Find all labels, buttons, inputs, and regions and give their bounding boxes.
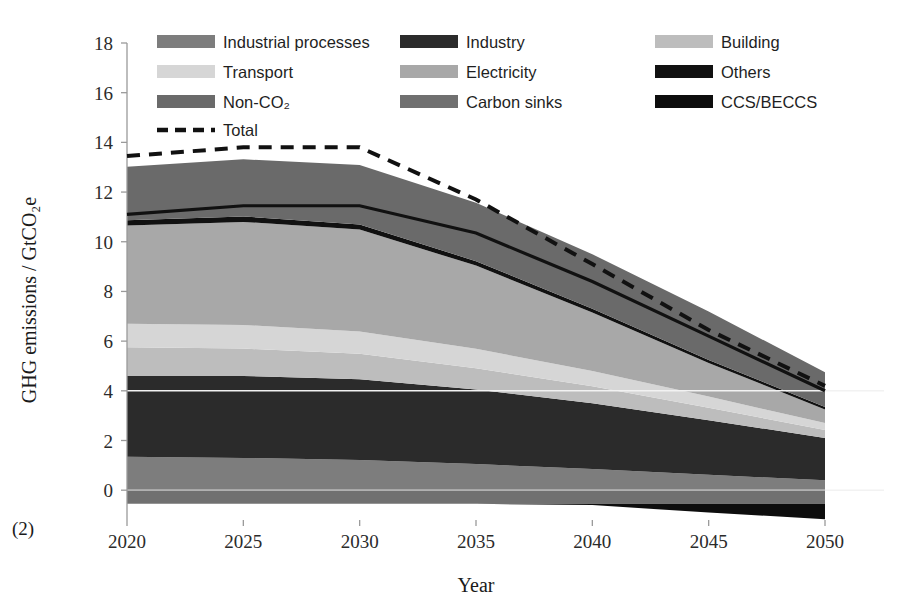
legend-swatch-electricity xyxy=(400,65,458,78)
y-axis-title: GHG emissions / GtCO₂e xyxy=(18,197,40,404)
y-tick-label-2: 2 xyxy=(104,431,114,452)
figure-panel: 024681012141618 202020252030203520402045… xyxy=(0,0,918,616)
legend-swatch-industrial_processes xyxy=(157,35,215,48)
y-tick-label-4: 4 xyxy=(104,381,114,402)
y-tick-label-6: 6 xyxy=(104,331,114,352)
x-tick-label-2025: 2025 xyxy=(224,531,262,552)
y-tick-label-16: 16 xyxy=(94,83,113,104)
x-tick-label-2045: 2045 xyxy=(690,531,728,552)
legend-label-industry: Industry xyxy=(466,33,525,51)
x-tick-label-2030: 2030 xyxy=(341,531,379,552)
legend-swatch-carbon_sinks xyxy=(400,95,458,108)
legend-label-electricity: Electricity xyxy=(466,63,537,81)
y-tick-label-0: 0 xyxy=(104,480,114,501)
x-tick-label-2050: 2050 xyxy=(806,531,844,552)
legend-label-transport: Transport xyxy=(223,63,293,81)
panel-label: (2) xyxy=(12,518,34,540)
legend-label-others: Others xyxy=(721,63,771,81)
x-axis-title: Year xyxy=(458,574,495,596)
y-tick-label-14: 14 xyxy=(94,132,114,153)
legend-label-non_co2: Non-CO₂ xyxy=(223,93,290,111)
y-tick-label-8: 8 xyxy=(104,281,114,302)
y-tick-label-12: 12 xyxy=(94,182,113,203)
x-tick-label-2020: 2020 xyxy=(108,531,146,552)
legend-label-ccs_beccs: CCS/BECCS xyxy=(721,93,817,111)
legend-label-carbon_sinks: Carbon sinks xyxy=(466,93,562,111)
legend-swatch-building xyxy=(655,35,713,48)
x-tick-label-2040: 2040 xyxy=(573,531,611,552)
legend-swatch-industry xyxy=(400,35,458,48)
y-tick-label-18: 18 xyxy=(94,33,113,54)
legend-swatch-others xyxy=(655,65,713,78)
legend-swatch-transport xyxy=(157,65,215,78)
legend-swatch-ccs_beccs xyxy=(655,95,713,108)
legend-label-building: Building xyxy=(721,33,780,51)
legend-label-total_line: Total xyxy=(223,121,258,139)
x-tick-label-2035: 2035 xyxy=(457,531,495,552)
ghg-emissions-stacked-area-chart: 024681012141618 202020252030203520402045… xyxy=(0,0,918,616)
legend-label-industrial_processes: Industrial processes xyxy=(223,33,370,51)
y-tick-label-10: 10 xyxy=(94,232,113,253)
area-band-carbon_sinks xyxy=(127,490,825,504)
legend-swatch-non_co2 xyxy=(157,95,215,108)
